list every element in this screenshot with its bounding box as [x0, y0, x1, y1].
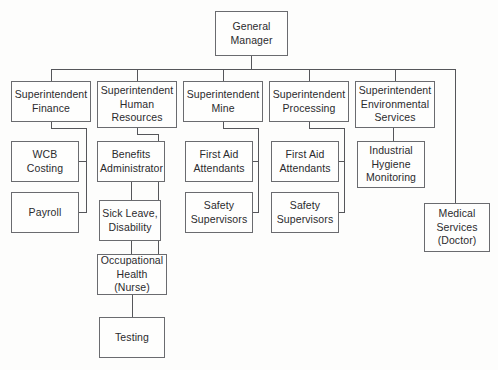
org-node-medical[interactable]: Medical Services (Doctor)	[424, 203, 490, 252]
org-node-label: First Aid Attendants	[186, 148, 252, 175]
org-node-label: Superintendent Mine	[184, 88, 262, 115]
org-node-label: WCB Costing	[12, 148, 78, 175]
org-node-label: Payroll	[12, 206, 78, 220]
org-node-label: Testing	[100, 331, 164, 345]
org-node-label: Superintendent Processing	[270, 88, 348, 115]
org-node-sup_hr[interactable]: Superintendent Human Resources	[97, 81, 177, 128]
org-node-sup_processing[interactable]: Superintendent Processing	[269, 81, 349, 122]
org-node-label: Superintendent Human Resources	[98, 84, 176, 125]
org-node-sup_env[interactable]: Superintendent Environmental Services	[355, 81, 435, 128]
org-node-mine_safety[interactable]: Safety Supervisors	[185, 192, 253, 233]
org-node-wcb[interactable]: WCB Costing	[11, 141, 79, 182]
org-node-label: General Manager	[216, 20, 287, 47]
org-node-sup_mine[interactable]: Superintendent Mine	[183, 81, 263, 122]
org-chart-canvas: General ManagerSuperintendent FinanceSup…	[0, 0, 498, 370]
org-node-label: Safety Supervisors	[186, 199, 252, 226]
org-node-label: Sick Leave, Disability	[100, 207, 160, 234]
org-node-gm[interactable]: General Manager	[215, 11, 288, 56]
org-node-testing[interactable]: Testing	[99, 317, 165, 358]
org-node-payroll[interactable]: Payroll	[11, 192, 79, 233]
org-node-sick_leave[interactable]: Sick Leave, Disability	[99, 200, 161, 241]
org-node-label: Superintendent Finance	[12, 88, 90, 115]
org-node-label: Safety Supervisors	[272, 199, 338, 226]
org-node-label: Industrial Hygiene Monitoring	[358, 144, 424, 185]
org-node-label: Superintendent Environmental Services	[356, 84, 434, 125]
org-node-label: Benefits Administrator	[98, 148, 164, 175]
org-node-label: Medical Services (Doctor)	[425, 207, 489, 248]
org-node-ind_hygiene[interactable]: Industrial Hygiene Monitoring	[357, 141, 425, 188]
org-node-proc_first_aid[interactable]: First Aid Attendants	[271, 141, 339, 182]
org-node-label: First Aid Attendants	[272, 148, 338, 175]
org-node-sup_finance[interactable]: Superintendent Finance	[11, 81, 91, 122]
org-node-mine_first_aid[interactable]: First Aid Attendants	[185, 141, 253, 182]
org-node-proc_safety[interactable]: Safety Supervisors	[271, 192, 339, 233]
org-node-benefits[interactable]: Benefits Administrator	[97, 141, 165, 182]
org-node-occ_health[interactable]: Occupational Health (Nurse)	[97, 254, 167, 295]
org-node-label: Occupational Health (Nurse)	[98, 254, 166, 295]
